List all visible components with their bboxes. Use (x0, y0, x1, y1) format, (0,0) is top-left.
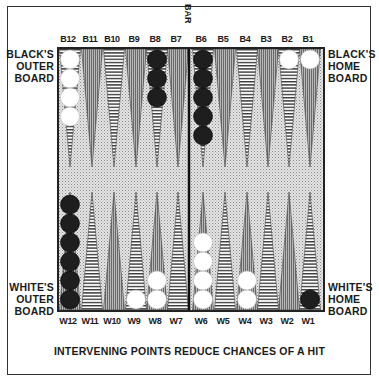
white-checker (194, 290, 213, 309)
white-home-board-label: WHITE'S HOME BOARD (328, 281, 378, 317)
white-checker (194, 271, 213, 290)
point-label-b11: B11 (79, 34, 101, 44)
point-label-w5: W5 (212, 316, 234, 326)
label-line: BOARD (328, 72, 378, 84)
black-checker (61, 214, 80, 233)
point-label-b6: B6 (190, 34, 212, 44)
point-label-w6: W6 (190, 316, 212, 326)
black-checker (148, 50, 167, 69)
black-checker (61, 290, 80, 309)
board-graphic (59, 49, 323, 310)
point-label-w2: W2 (276, 316, 298, 326)
white-checker (148, 271, 167, 290)
point-label-w11: W11 (79, 316, 101, 326)
white-checker (148, 290, 167, 309)
point-label-b5: B5 (212, 34, 234, 44)
point-label-w7: W7 (165, 316, 187, 326)
label-line: OUTER (4, 293, 54, 305)
point-label-b7: B7 (165, 34, 187, 44)
black-checker (194, 88, 213, 107)
label-line: WHITE'S (4, 281, 54, 293)
white-checker (61, 107, 80, 126)
point-label-b1: B1 (297, 34, 319, 44)
point-label-w4: W4 (234, 316, 256, 326)
point-label-b10: B10 (101, 34, 123, 44)
label-line: BOARD (4, 305, 54, 317)
white-checker (194, 252, 213, 271)
point-label-b2: B2 (276, 34, 298, 44)
point-label-b3: B3 (255, 34, 277, 44)
black-checker (194, 107, 213, 126)
point-label-w9: W9 (123, 316, 145, 326)
white-checker (194, 233, 213, 252)
black-checker (301, 290, 320, 309)
white-checker (61, 50, 80, 69)
diagram-caption: INTERVENING POINTS REDUCE CHANCES OF A H… (0, 345, 379, 357)
label-line: BLACK'S (328, 48, 378, 60)
black-checker (61, 233, 80, 252)
label-line: HOME (328, 293, 378, 305)
point-label-w12: W12 (57, 316, 79, 326)
black-checker (148, 69, 167, 88)
point-label-w10: W10 (101, 316, 123, 326)
white-checker (61, 69, 80, 88)
white-checker (127, 290, 146, 309)
white-outer-board-label: WHITE'S OUTER BOARD (4, 281, 54, 317)
black-checker (194, 69, 213, 88)
black-home-board-label: BLACK'S HOME BOARD (328, 48, 378, 84)
point-label-b8: B8 (144, 34, 166, 44)
black-checker (194, 126, 213, 145)
point-label-w1: W1 (297, 316, 319, 326)
white-checker (301, 50, 320, 69)
point-label-b9: B9 (123, 34, 145, 44)
white-checker (238, 271, 257, 290)
point-label-w3: W3 (255, 316, 277, 326)
white-checker (238, 290, 257, 309)
black-checker (61, 252, 80, 271)
label-line: BOARD (328, 305, 378, 317)
label-line: HOME (328, 60, 378, 72)
backgammon-board (57, 47, 325, 312)
point-label-w8: W8 (144, 316, 166, 326)
label-line: WHITE'S (328, 281, 378, 293)
bar-label-text: BAR (183, 4, 192, 24)
label-line: BLACK'S (4, 48, 54, 60)
black-checker (61, 195, 80, 214)
label-line: BOARD (4, 72, 54, 84)
label-line: OUTER (4, 60, 54, 72)
white-checker (280, 50, 299, 69)
white-checker (61, 88, 80, 107)
black-checker (61, 271, 80, 290)
point-label-b4: B4 (234, 34, 256, 44)
black-checker (148, 88, 167, 107)
point-label-b12: B12 (57, 34, 79, 44)
black-checker (194, 50, 213, 69)
black-outer-board-label: BLACK'S OUTER BOARD (4, 48, 54, 84)
bar-label: BAR (183, 4, 193, 24)
